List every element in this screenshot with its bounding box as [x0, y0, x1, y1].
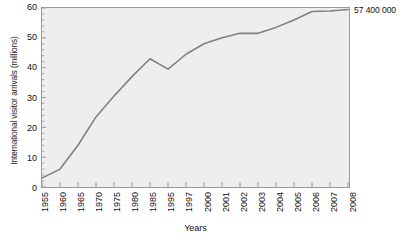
- x-tick-label: 1980: [131, 192, 140, 212]
- x-axis-ticks: [42, 182, 348, 187]
- x-tick-label: 2007: [330, 192, 339, 212]
- y-axis-minor-ticks: [42, 8, 46, 187]
- x-tick-label: 1997: [185, 192, 194, 212]
- x-tick-label: 1995: [167, 192, 176, 212]
- x-tick-label: 2002: [239, 192, 248, 212]
- x-tick-label: 2003: [257, 192, 266, 212]
- y-tick-label: 50: [27, 33, 37, 42]
- chart-figure: International visitor arrivals (millions…: [0, 0, 402, 243]
- y-tick-label: 10: [27, 153, 37, 162]
- x-axis-title: Years: [41, 223, 350, 233]
- x-tick-label: 1985: [149, 192, 158, 212]
- plot-area: [41, 7, 350, 188]
- x-tick-label: 1965: [76, 192, 85, 212]
- x-tick-label: 1955: [40, 192, 49, 212]
- y-tick-label: 20: [27, 123, 37, 132]
- y-tick-label: 30: [27, 93, 37, 102]
- x-tick-label: 1975: [112, 192, 121, 212]
- x-tick-label: 2008: [348, 192, 357, 212]
- x-tick-label: 1960: [58, 192, 67, 212]
- y-tick-label: 0: [32, 184, 37, 193]
- x-tick-label: 1970: [94, 192, 103, 212]
- x-tick-label: 2000: [203, 192, 212, 212]
- final-value-annotation: 57 400 000: [354, 5, 396, 15]
- visitor-arrivals-line: [42, 9, 348, 178]
- x-tick-label: 2001: [221, 192, 230, 212]
- x-tick-label: 2006: [312, 192, 321, 212]
- x-tick-label: 2004: [276, 192, 285, 212]
- y-tick-label: 60: [27, 3, 37, 12]
- y-axis-tick-labels: 0102030405060: [12, 0, 37, 243]
- line-chart-svg: [42, 8, 349, 187]
- y-tick-label: 40: [27, 63, 37, 72]
- x-tick-label: 2005: [294, 192, 303, 212]
